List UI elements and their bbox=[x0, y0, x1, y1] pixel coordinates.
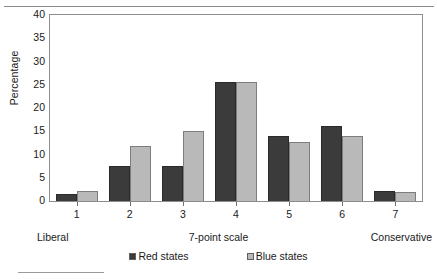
x-axis-tick-label: 4 bbox=[221, 208, 251, 220]
bar-chart: Percentage 4035302520151050 1234567 Libe… bbox=[0, 0, 437, 279]
bar-red-states-2 bbox=[109, 166, 130, 201]
x-axis-tick-label: 6 bbox=[327, 208, 357, 220]
legend-swatch-icon bbox=[129, 253, 136, 260]
x-axis-tick-label: 2 bbox=[115, 208, 145, 220]
bar-group bbox=[50, 15, 103, 201]
bar-blue-states-3 bbox=[183, 131, 204, 201]
bar-red-states-5 bbox=[268, 136, 289, 201]
bar-blue-states-7 bbox=[395, 192, 416, 201]
legend-item-blue-states[interactable]: Blue states bbox=[247, 250, 308, 262]
y-axis-tick-label: 5 bbox=[21, 172, 45, 183]
y-axis-tick-label: 30 bbox=[21, 55, 45, 66]
y-axis-tick-label: 10 bbox=[21, 148, 45, 159]
legend-label: Blue states bbox=[256, 250, 308, 262]
bar-group bbox=[209, 15, 262, 201]
bar-group bbox=[103, 15, 156, 201]
y-axis-tick-label: 20 bbox=[21, 102, 45, 113]
bar-group bbox=[263, 15, 316, 201]
bar-red-states-3 bbox=[162, 166, 183, 201]
x-axis-tick-mark bbox=[130, 202, 131, 206]
scale-high-label: Conservative bbox=[371, 231, 432, 243]
legend-item-red-states[interactable]: Red states bbox=[129, 250, 188, 262]
bar-red-states-1 bbox=[56, 194, 77, 201]
bar-group bbox=[316, 15, 369, 201]
y-axis-tick-label: 15 bbox=[21, 125, 45, 136]
bar-blue-states-2 bbox=[130, 146, 151, 201]
x-axis-tick-label: 1 bbox=[62, 208, 92, 220]
y-axis-tick-label: 35 bbox=[21, 32, 45, 43]
bars-area bbox=[50, 15, 422, 201]
bar-blue-states-5 bbox=[289, 142, 310, 201]
x-axis-tick-mark bbox=[236, 202, 237, 206]
y-axis-tick-label: 40 bbox=[21, 9, 45, 20]
x-axis-tick-mark bbox=[77, 202, 78, 206]
y-axis-tick-labels: 4035302520151050 bbox=[19, 14, 45, 202]
bar-blue-states-1 bbox=[77, 191, 98, 201]
x-axis-tick-label: 5 bbox=[274, 208, 304, 220]
x-axis-tick-mark bbox=[289, 202, 290, 206]
bar-red-states-4 bbox=[215, 82, 236, 201]
x-axis-tick-mark bbox=[342, 202, 343, 206]
x-axis-tick-label: 7 bbox=[380, 208, 410, 220]
bar-group bbox=[156, 15, 209, 201]
x-axis-tick-label: 3 bbox=[168, 208, 198, 220]
x-axis-tick-mark bbox=[183, 202, 184, 206]
y-axis-tick-label: 0 bbox=[21, 195, 45, 206]
bar-group bbox=[369, 15, 422, 201]
bar-red-states-6 bbox=[321, 126, 342, 201]
y-axis-tick-label: 25 bbox=[21, 79, 45, 90]
bar-red-states-7 bbox=[374, 191, 395, 201]
legend-swatch-icon bbox=[247, 253, 254, 260]
x-axis-tick-mark bbox=[395, 202, 396, 206]
chart-legend: Red statesBlue states bbox=[0, 250, 437, 262]
bar-blue-states-4 bbox=[236, 82, 257, 201]
bar-blue-states-6 bbox=[342, 136, 363, 201]
legend-label: Red states bbox=[138, 250, 188, 262]
